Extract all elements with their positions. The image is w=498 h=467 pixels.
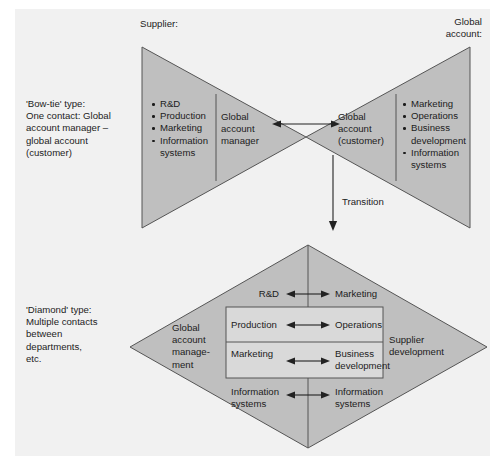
supplier-contact-line-1: Global (221, 111, 283, 123)
diamond-row-2-right: Operations (335, 319, 415, 331)
supplier-header: Supplier: (140, 18, 260, 30)
global-account-header-line-2: account: (360, 28, 482, 40)
diamond-caption: 'Diamond' type: Multiple contacts betwee… (26, 304, 138, 365)
diamond-right-label-line-2: development (389, 346, 473, 358)
diagram-canvas: Supplier: Global account: 'Bow-tie' type… (0, 0, 498, 467)
diamond-row-4-left-line-2: systems (231, 398, 299, 410)
diamond-row-4-left: Information systems (231, 386, 299, 410)
supplier-function-item: R&D (152, 98, 214, 110)
bowtie-caption-line-2: One contact: Global (26, 110, 138, 122)
diamond-row-4-right-line-2: systems (335, 398, 403, 410)
customer-contact-line-2: account (338, 123, 400, 135)
supplier-function-item: Information systems (152, 135, 214, 159)
diamond-row-3-right: Business development (335, 348, 401, 372)
supplier-contact-label: Global account manager (221, 111, 283, 148)
diamond-right-label-line-1: Supplier (389, 334, 473, 346)
diamond-row-1-right: Marketing (335, 288, 415, 300)
diamond-row-3-right-line-1: Business (335, 348, 401, 360)
diamond-caption-line-2: Multiple contacts (26, 316, 138, 328)
supplier-contact-line-3: manager (221, 135, 283, 147)
bowtie-caption-line-5: (customer) (26, 147, 138, 159)
diamond-row-4-right-line-1: Information (335, 386, 403, 398)
customer-function-item: Marketing (403, 98, 475, 110)
diamond-row-4-left-line-1: Information (231, 386, 299, 398)
diamond-right-label: Supplier development (389, 334, 473, 358)
bowtie-caption-line-3: account manager – (26, 122, 138, 134)
customer-function-item: Operations (403, 110, 475, 122)
customer-functions-list: Marketing Operations Business developmen… (403, 98, 475, 171)
customer-function-item: Information systems (403, 147, 475, 171)
diamond-row-4-right: Information systems (335, 386, 403, 410)
diamond-caption-line-5: etc. (26, 353, 138, 365)
diamond-left-label-line-1: Global (172, 322, 228, 334)
diamond-row-3-right-line-2: development (335, 360, 401, 372)
transition-label: Transition (342, 196, 422, 208)
diamond-left-label-line-3: manage- (172, 346, 228, 358)
diamond-row-3-left: Marketing (231, 348, 301, 360)
transition-arrow (329, 155, 337, 231)
bowtie-caption: 'Bow-tie' type: One contact: Global acco… (26, 98, 138, 159)
diamond-left-label: Global account manage- ment (172, 322, 228, 371)
cropped-caption-remnant (22, 0, 25, 6)
global-account-header-line-1: Global (360, 16, 482, 28)
diamond-left-label-line-4: ment (172, 359, 228, 371)
supplier-functions-list: R&D Production Marketing Information sys… (152, 98, 214, 159)
customer-contact-line-1: Global (338, 111, 400, 123)
customer-function-item: Business development (403, 122, 475, 146)
supplier-function-item: Marketing (152, 122, 214, 134)
diamond-caption-line-4: departments, (26, 341, 138, 353)
customer-contact-line-3: (customer) (338, 135, 400, 147)
supplier-function-item: Production (152, 110, 214, 122)
global-account-header: Global account: (360, 16, 482, 40)
supplier-contact-line-2: account (221, 123, 283, 135)
diamond-caption-line-3: between (26, 328, 138, 340)
bowtie-caption-line-1: 'Bow-tie' type: (26, 98, 138, 110)
diamond-row-1-left: R&D (215, 288, 279, 300)
customer-contact-label: Global account (customer) (338, 111, 400, 148)
bowtie-caption-line-4: global account (26, 135, 138, 147)
diamond-caption-line-1: 'Diamond' type: (26, 304, 138, 316)
diamond-left-label-line-2: account (172, 334, 228, 346)
diamond-row-2-left: Production (231, 319, 301, 331)
